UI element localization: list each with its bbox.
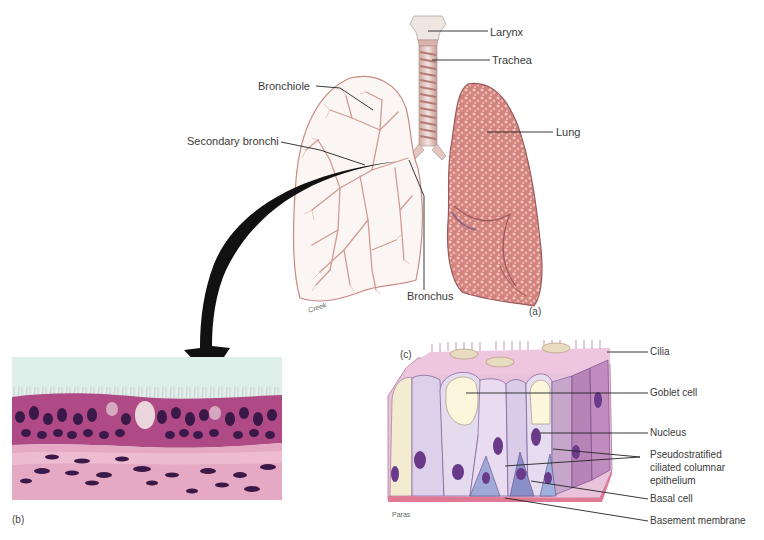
epithelium-drawing [388,340,612,502]
panel-letter-a: (a) [529,306,541,317]
label-goblet-cell: Goblet cell [650,387,697,399]
artist-credit-paras: Paras [392,509,410,521]
panel-letter-b: (b) [12,514,24,525]
label-larynx: Larynx [490,26,523,38]
label-basal-cell: Basal cell [650,493,693,505]
label-pseudostratified-line2: ciliated columnar [650,462,725,474]
label-bronchus: Bronchus [407,290,453,302]
label-pseudostratified-line1: Pseudostratified [650,449,722,461]
label-bronchiole: Bronchiole [258,80,310,92]
label-lung: Lung [556,126,580,138]
panel-letter-c: (c) [400,349,412,360]
right-lung [448,83,542,306]
label-nucleus: Nucleus [650,427,686,439]
micrograph-panel [12,357,282,500]
label-pseudostratified-line3: epithelium [650,475,696,487]
label-trachea: Trachea [492,54,532,66]
label-secondary-bronchi: Secondary bronchi [187,135,279,147]
micrograph-image [12,357,282,500]
left-lung-sketch [293,76,422,300]
label-basement-membrane: Basement membrane [650,515,746,527]
label-cilia: Cilia [650,346,669,358]
